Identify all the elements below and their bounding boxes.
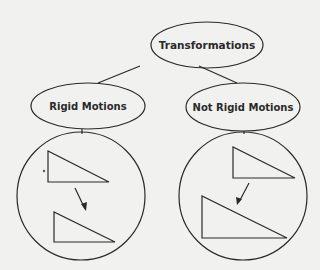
root-node-label: Transformations	[159, 39, 256, 51]
not-rigid-original-triangle	[233, 147, 295, 178]
transformations-diagram: Transformations Rigid Motions Not Rigid …	[0, 0, 320, 270]
not-rigid-motions-label: Not Rigid Motions	[193, 102, 294, 113]
connector-root-to-rigid	[98, 66, 140, 83]
diagram-svg: Transformations Rigid Motions Not Rigid …	[0, 0, 320, 270]
rigid-motions-label: Rigid Motions	[49, 101, 126, 112]
not-rigid-example-circle	[179, 132, 307, 260]
rigid-original-triangle	[48, 151, 109, 182]
not-rigid-image-triangle	[202, 196, 287, 238]
rigid-image-triangle	[54, 212, 115, 242]
marker-dot	[43, 170, 45, 172]
rigid-example-circle	[17, 132, 145, 260]
